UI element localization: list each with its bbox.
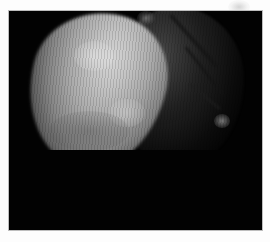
image-frame: [9, 11, 262, 230]
sphere-shade: [49, 111, 129, 151]
image-canvas: [0, 0, 270, 242]
sphere-highlight: [74, 41, 114, 71]
dark-background: [9, 150, 262, 230]
surface-feature: [214, 114, 230, 128]
